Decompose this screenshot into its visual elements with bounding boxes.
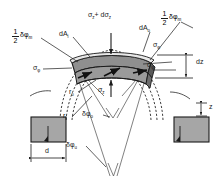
label-sigma-z: σz — [98, 86, 105, 96]
label-half-delta-phi-m-right: 1 2 δφm — [161, 10, 181, 26]
label-delta-phi-inner: δφu — [66, 141, 77, 151]
label-dA-outer: dAo — [139, 24, 150, 34]
left-support-block — [31, 117, 66, 142]
label-z: z — [209, 103, 213, 110]
label-half-delta-phi-m-left: 1 2 δφm — [12, 28, 32, 44]
label-d: d — [45, 147, 49, 154]
right-support-block — [174, 117, 209, 142]
dz-dimension — [155, 55, 193, 78]
diagram-svg — [0, 0, 223, 181]
label-dA-inner: dAi — [59, 30, 69, 40]
label-r-outer: ro — [69, 88, 74, 98]
label-sigma-phi-right: σφ — [147, 61, 154, 71]
figure-canvas: dAi dAo σz+ dσz 1 2 δφm 1 2 δφm σφ σφ σφ — [0, 0, 223, 181]
label-sigma-phi-right-upper: σφ — [153, 41, 160, 51]
arch-outline — [30, 91, 190, 99]
label-dz: dz — [196, 58, 203, 65]
leader-lines — [41, 22, 193, 167]
z-dimension-arrow — [196, 103, 207, 116]
label-sigma-phi-left: σφ — [33, 64, 40, 74]
angle-vertex-markers — [106, 108, 119, 176]
label-delta-phi-outer: δφo — [82, 110, 93, 120]
label-r-inner: ri — [63, 112, 66, 122]
label-sigma-z-plus-dsigma-z: σz+ dσz — [88, 11, 111, 21]
